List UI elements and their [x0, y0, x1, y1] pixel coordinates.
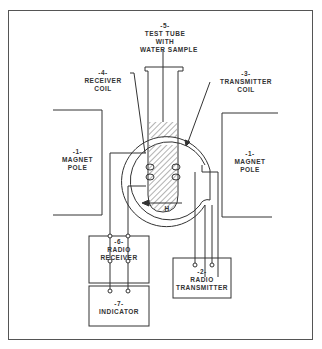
label-radio-receiver: -6- RADIO RECEIVER: [90, 238, 148, 262]
label-magnet-right: -1- MAGNET POLE: [225, 150, 275, 174]
label-test-tube: -5- TEST TUBE WITH WATER SAMPLE: [140, 22, 190, 54]
label-receiver-coil: -4- RECEIVER COIL: [80, 69, 126, 93]
label-radio-transmitter: -2- RADIO TRANSMITTER: [174, 268, 230, 292]
label-indicator: -7- INDICATOR: [90, 300, 148, 316]
label-magnet-left: -1- MAGNET POLE: [55, 148, 100, 172]
label-transmitter-coil: -3- TRANSMITTER COIL: [215, 70, 277, 94]
label-field-h: H: [162, 205, 172, 213]
